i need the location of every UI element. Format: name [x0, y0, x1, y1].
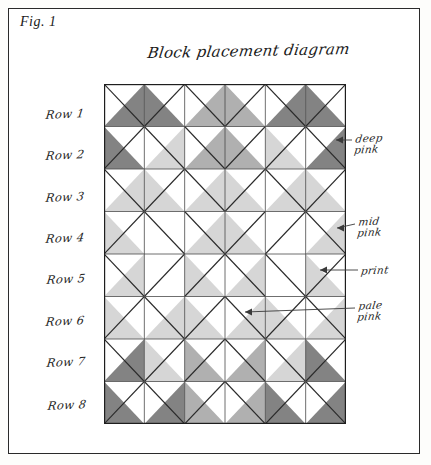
- row-label-4: Row 4: [45, 230, 85, 246]
- quilt-grid: [104, 84, 346, 424]
- row-label-7: Row 7: [46, 354, 86, 370]
- row-label-5: Row 5: [46, 271, 86, 287]
- row-label-2: Row 2: [45, 147, 85, 163]
- callout-print: print: [360, 264, 389, 276]
- row-label-1: Row 1: [45, 106, 85, 122]
- callout-deep-pink: deep pink: [354, 132, 384, 154]
- callout-mid-pink: mid pink: [357, 215, 384, 237]
- page-background: Fig. 1 Block placement diagram Row 1 Row…: [0, 0, 431, 465]
- row-label-6: Row 6: [45, 313, 85, 329]
- row-label-3: Row 3: [45, 189, 85, 205]
- quilt-svg: [104, 84, 346, 424]
- callout-pale-pink: pale pink: [357, 299, 384, 321]
- figure-number: Fig. 1: [20, 14, 56, 30]
- row-label-8: Row 8: [47, 397, 87, 413]
